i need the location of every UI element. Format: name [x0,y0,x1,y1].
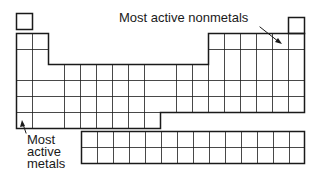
most-active-metals-label: Most active metals [27,134,65,170]
helium-cell [289,18,305,34]
nonmetals-arrow-icon [260,27,282,44]
inner-transition-grid [82,132,305,164]
most-active-nonmetals-label: Most active nonmetals [119,12,248,24]
metals-label-line-3: metals [27,158,65,170]
hydrogen-cell [17,14,33,30]
main-table-outline [17,34,305,129]
metals-arrow-icon [20,120,26,133]
